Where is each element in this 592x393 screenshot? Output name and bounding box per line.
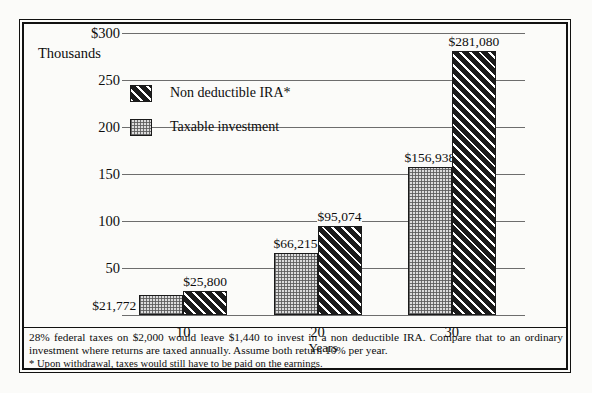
bar-value-label: $21,772 — [91, 298, 137, 314]
legend-item: Taxable investment — [130, 110, 360, 144]
footnote-separator — [22, 327, 568, 328]
chart-legend: Non deductible IRA*Taxable investment — [130, 76, 360, 144]
bar-value-label: $25,800 — [182, 274, 228, 290]
bar: $66,215 — [274, 253, 318, 315]
bar: $21,772 — [139, 295, 183, 315]
footnote-star-note: * Upon withdrawal, taxes would still hav… — [29, 357, 563, 370]
bar-value-label: $66,215 — [273, 236, 319, 252]
y-tick-label: 250 — [58, 72, 120, 89]
y-tick-label: 50 — [58, 260, 120, 277]
legend-item: Non deductible IRA* — [130, 76, 360, 110]
footnote-body: 28% federal taxes on $2,000 would leave … — [29, 331, 563, 357]
bar: $25,800 — [183, 291, 227, 315]
y-axis-tick-labels: $30025020015010050 — [36, 22, 120, 322]
footnote-block: 28% federal taxes on $2,000 would leave … — [29, 331, 563, 371]
bar: $95,074 — [318, 226, 362, 315]
x-axis-baseline — [122, 315, 525, 316]
legend-swatch-icon — [130, 85, 152, 102]
chart-plot-region: Thousands $30025020015010050 $21,772$25,… — [22, 22, 568, 322]
bar-value-label: $95,074 — [317, 209, 363, 225]
y-tick-label: $300 — [58, 25, 120, 42]
legend-label: Non deductible IRA* — [170, 85, 291, 101]
legend-label: Taxable investment — [170, 119, 279, 135]
bar: $156,938 — [408, 167, 452, 315]
y-tick-label: 100 — [58, 213, 120, 230]
bar-value-label: $156,938 — [404, 150, 457, 166]
y-tick-label: 200 — [58, 119, 120, 136]
chart-figure: Thousands $30025020015010050 $21,772$25,… — [0, 0, 592, 393]
legend-swatch-icon — [130, 119, 152, 136]
y-tick-label: 150 — [58, 166, 120, 183]
bar-value-label: $281,080 — [448, 34, 501, 50]
bar: $281,080 — [452, 51, 496, 315]
plot-canvas: $21,772$25,800$66,215$95,074$156,938$281… — [122, 22, 525, 322]
